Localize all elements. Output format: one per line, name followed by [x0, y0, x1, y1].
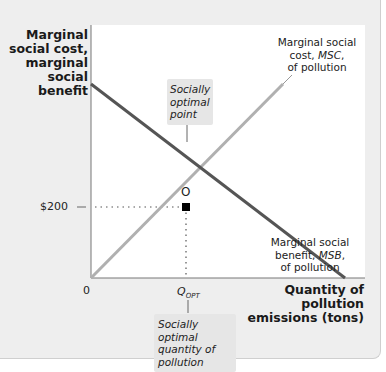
- origin-label: 0: [83, 284, 90, 297]
- x-axis-title: Quantity of pollution emissions (tons): [244, 283, 364, 325]
- q-opt-label: QOPT: [177, 285, 200, 303]
- msb-label: Marginal social benefit, MSB, of polluti…: [255, 236, 365, 274]
- equilibrium-point: [182, 203, 190, 211]
- optimal-quantity-callout: Socially optimal quantity of pollution: [154, 314, 236, 372]
- optimal-point-callout: Socially optimal point: [167, 79, 213, 125]
- price-tick-label: $200: [40, 200, 68, 213]
- y-axis-title: Marginal social cost, marginal social be…: [4, 28, 88, 98]
- msc-leader-line: [283, 75, 292, 84]
- msc-label: Marginal social cost, MSC, of pollution: [262, 36, 372, 74]
- equilibrium-label: O: [181, 186, 190, 199]
